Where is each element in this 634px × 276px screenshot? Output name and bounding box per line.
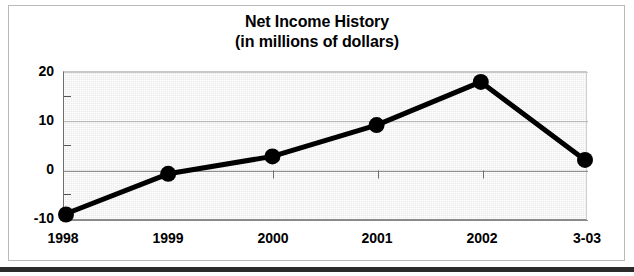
y-tick-label-minus-10: -10 [2,211,54,225]
data-point-1998 [58,207,74,223]
data-series-net-income [58,74,593,223]
gridlines [64,73,588,221]
data-point-2001 [369,117,385,133]
y-tick-label-20: 20 [2,64,54,78]
y-axis-minor-ticks [64,97,71,195]
data-point-1999 [160,166,176,182]
x-tick-label-2002: 2002 [437,231,527,245]
y-tick-label-10: 10 [2,113,54,127]
data-line [64,82,585,215]
x-tick-label-2001: 2001 [332,231,422,245]
chart-subtitle: (in millions of dollars) [0,32,634,52]
x-tick-label-1999: 1999 [123,231,213,245]
data-point-2000 [264,148,280,164]
x-tick-label-3-03: 3-03 [542,231,632,245]
line-chart-svg [64,72,588,221]
data-point-2002 [473,74,489,90]
data-point-3-03 [577,152,593,168]
chart-page: Net Income History (in millions of dolla… [0,0,634,276]
bottom-divider-rule [0,267,634,272]
x-tick-label-2000: 2000 [228,231,318,245]
plot-area [63,71,587,220]
x-tick-label-1998: 1998 [18,231,108,245]
y-tick-label-0: 0 [2,162,54,176]
chart-title-block: Net Income History (in millions of dolla… [0,12,634,52]
chart-title: Net Income History [0,12,634,32]
